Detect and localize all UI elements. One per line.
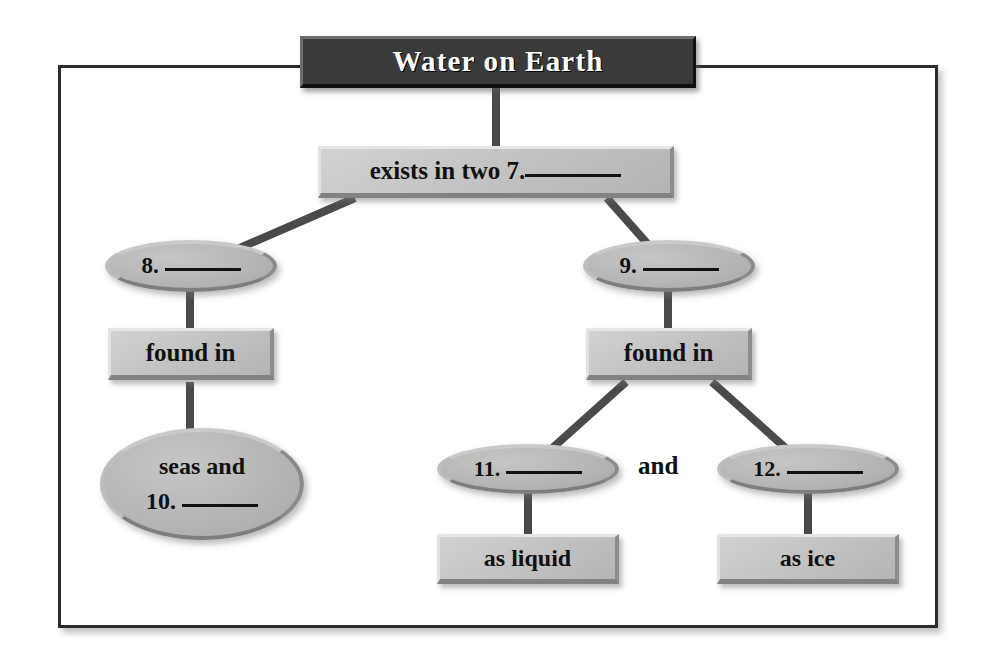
answer-blank-9 [643,268,719,271]
node-exists-label: exists in two 7. [370,157,622,185]
answer-blank-12 [787,471,863,474]
answer-blank-7 [525,174,621,177]
node-item-11: 11. [437,444,619,494]
node-found-in-left-label: found in [146,339,236,367]
node-seas-line2: 10. [146,489,258,514]
node-item-9-label: 9. [619,254,718,278]
answer-blank-11 [506,471,582,474]
diagram-canvas: Water on Earth exists in two 7. 8. 9. fo… [0,0,996,665]
node-seas-line1: seas and [159,454,245,479]
node-item-12-label: 12. [753,457,863,480]
answer-blank-8 [165,268,241,271]
node-as-liquid: as liquid [437,534,619,584]
node-item-8-label: 8. [141,254,240,278]
node-water-on-earth-title: Water on Earth [300,36,696,88]
node-item-12: 12. [717,444,899,494]
node-found-in-left: found in [108,328,274,380]
node-as-liquid-label: as liquid [484,545,571,572]
node-item-9: 9. [583,240,755,292]
node-seas-and-10: seas and 10. [100,428,304,540]
node-as-ice: as ice [717,534,899,584]
answer-blank-10 [182,504,258,507]
node-found-in-right: found in [586,328,752,380]
node-found-in-right-label: found in [624,339,714,367]
node-exists-in-two: exists in two 7. [318,146,674,198]
node-as-ice-label: as ice [780,545,835,572]
node-item-8: 8. [105,240,277,292]
node-item-11-label: 11. [474,457,582,480]
conjunction-and-label: and [638,452,678,480]
title-label: Water on Earth [392,45,603,78]
connector-found-in-right-to-12 [712,382,790,452]
connector-found-in-right-to-11 [548,382,626,452]
